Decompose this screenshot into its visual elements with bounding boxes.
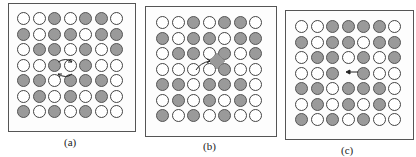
annotation-overlay: [0, 0, 416, 157]
exchange-arrows-icon: [58, 59, 72, 77]
interstitial-atom-icon: [209, 53, 225, 69]
left-arrow-icon: [346, 70, 358, 74]
jump-arrow-icon: [196, 59, 210, 70]
